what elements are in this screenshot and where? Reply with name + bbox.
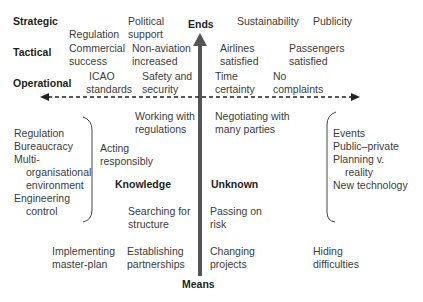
right-item: reality bbox=[333, 166, 373, 178]
line: Passing on bbox=[210, 205, 262, 217]
item-negotiating: Negotiating with many parties bbox=[215, 110, 290, 136]
end-safety-security: Safety and security bbox=[142, 70, 192, 96]
line: Searching for bbox=[128, 205, 190, 217]
end-commercial-success: Commercial success bbox=[69, 42, 125, 68]
line: satisfied bbox=[289, 55, 328, 67]
line: Commercial bbox=[69, 42, 125, 54]
level-tactical: Tactical bbox=[13, 46, 51, 59]
line: success bbox=[69, 55, 107, 67]
means-implementing: Implementing master-plan bbox=[52, 245, 115, 271]
right-group: Events Public–private Planning v. realit… bbox=[333, 127, 408, 192]
level-operational: Operational bbox=[13, 77, 71, 90]
line: Hiding bbox=[313, 245, 343, 257]
line: Political bbox=[128, 15, 164, 27]
line: Non-aviation bbox=[132, 42, 191, 54]
end-sustainability: Sustainability bbox=[237, 15, 299, 28]
line: standards bbox=[86, 83, 132, 95]
line: Establishing bbox=[127, 245, 184, 257]
end-icao-standards: ICAO standards bbox=[86, 70, 132, 96]
line: Changing bbox=[210, 245, 255, 257]
means-label: Means bbox=[182, 278, 215, 291]
left-item: control bbox=[14, 205, 58, 217]
end-no-complaints: No complaints bbox=[273, 70, 323, 96]
line: Acting bbox=[100, 142, 129, 154]
end-political-support: Political support bbox=[128, 15, 164, 41]
right-item: Public–private bbox=[333, 140, 399, 152]
left-item: Bureaucracy bbox=[14, 140, 73, 152]
level-strategic: Strategic bbox=[13, 15, 58, 28]
item-searching-for-structure: Searching for structure bbox=[128, 205, 190, 231]
end-publicity: Publicity bbox=[313, 15, 352, 28]
line: Negotiating with bbox=[215, 110, 290, 122]
end-regulation: Regulation bbox=[69, 28, 119, 41]
means-hiding: Hiding difficulties bbox=[313, 245, 359, 271]
line: No bbox=[273, 70, 286, 82]
line: Working with bbox=[135, 110, 195, 122]
line: projects bbox=[210, 258, 247, 270]
line: structure bbox=[128, 218, 169, 230]
line: Implementing bbox=[52, 245, 115, 257]
left-item: Multi- bbox=[14, 153, 40, 165]
left-group: Regulation Bureaucracy Multi- organisati… bbox=[14, 127, 91, 218]
line: responsibly bbox=[100, 155, 153, 167]
line: Passengers bbox=[289, 42, 344, 54]
left-item: Engineering bbox=[14, 192, 70, 204]
left-item: organisational bbox=[14, 166, 91, 178]
line: certainty bbox=[215, 83, 255, 95]
left-item: environment bbox=[14, 179, 84, 191]
item-acting-responsibly: Acting responsibly bbox=[100, 142, 153, 168]
item-working-with-regulations: Working with regulations bbox=[135, 110, 195, 136]
right-arrowhead-icon bbox=[351, 93, 360, 101]
end-non-aviation: Non-aviation increased bbox=[132, 42, 191, 68]
line: regulations bbox=[135, 123, 186, 135]
line: Time bbox=[215, 70, 238, 82]
line: increased bbox=[132, 55, 178, 67]
left-arrowhead-icon bbox=[40, 93, 49, 101]
item-passing-on-risk: Passing on risk bbox=[210, 205, 262, 231]
ends-label: Ends bbox=[188, 18, 214, 31]
left-item: Regulation bbox=[14, 127, 64, 139]
right-item: Events bbox=[333, 127, 365, 139]
line: complaints bbox=[273, 83, 323, 95]
up-arrowhead-icon bbox=[193, 33, 207, 46]
line: difficulties bbox=[313, 258, 359, 270]
line: support bbox=[128, 28, 163, 40]
means-establishing: Establishing partnerships bbox=[127, 245, 185, 271]
line: many parties bbox=[215, 123, 275, 135]
quadrant-knowledge-label: Knowledge bbox=[115, 178, 171, 191]
line: master-plan bbox=[52, 258, 107, 270]
end-time-certainty: Time certainty bbox=[215, 70, 255, 96]
line: risk bbox=[210, 218, 226, 230]
end-passengers-satisfied: Passengers satisfied bbox=[289, 42, 344, 68]
line: satisfied bbox=[220, 55, 259, 67]
line: security bbox=[142, 83, 178, 95]
means-changing: Changing projects bbox=[210, 245, 255, 271]
quadrant-unknown-label: Unknown bbox=[211, 178, 258, 191]
line: Safety and bbox=[142, 70, 192, 82]
right-item: Planning v. bbox=[333, 153, 384, 165]
line: Airlines bbox=[220, 42, 254, 54]
line: partnerships bbox=[127, 258, 185, 270]
line: ICAO bbox=[86, 70, 115, 82]
right-item: New technology bbox=[333, 179, 408, 191]
end-airlines-satisfied: Airlines satisfied bbox=[220, 42, 259, 68]
